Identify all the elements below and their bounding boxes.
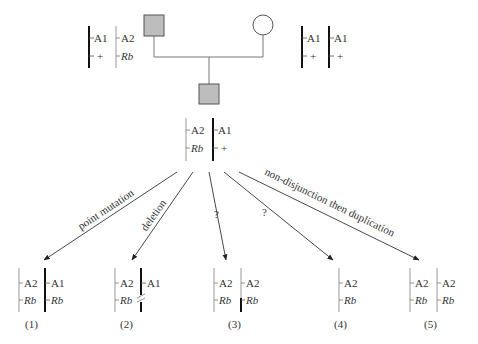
outcome-2-chr2-locus-a: A1	[147, 277, 160, 289]
diagram-canvas	[0, 0, 478, 344]
outcome-4-chr1-locus-b: Rb	[344, 294, 356, 306]
outcome-1-chr1-locus-b: Rb	[24, 294, 36, 306]
child-chr1-locus-a: A2	[191, 124, 204, 136]
father-chr1-locus-a: A1	[94, 32, 107, 44]
child-chr1-locus-b: Rb	[191, 142, 203, 154]
outcome-1-chr1-locus-a: A2	[24, 277, 37, 289]
outcome-1-chr2-locus-a: A1	[51, 277, 64, 289]
outcome-4-number: (4)	[334, 318, 347, 330]
mother-chr2-locus-a: A1	[334, 32, 347, 44]
outcome-3-number: (3)	[228, 318, 241, 330]
label-question-3: ?	[214, 208, 219, 220]
outcome-5-chr2-locus-a: A2	[442, 277, 455, 289]
outcome-5-chr2-locus-b: Rb	[442, 294, 454, 306]
outcome-2-chr1-locus-b: Rb	[120, 294, 132, 306]
outcome-3-chr2-locus-a: A2	[246, 277, 259, 289]
outcome-3-chr1-locus-b: Rb	[219, 294, 231, 306]
deletion-mark	[137, 294, 145, 302]
outcome-5-number: (5)	[424, 318, 437, 330]
father-chr1-locus-b: +	[97, 50, 103, 62]
outcome-1-number: (1)	[25, 318, 38, 330]
outcome-5-chr1-locus-b: Rb	[415, 294, 427, 306]
outcome-3-chr1-locus-a: A2	[219, 277, 232, 289]
mother-symbol	[253, 15, 273, 35]
child-symbol	[199, 84, 219, 104]
outcome-3-chr2-locus-b: Rb	[246, 294, 258, 306]
mother-chr1-locus-b: +	[310, 50, 316, 62]
child-chr2-locus-b: +	[221, 142, 227, 154]
father-symbol	[144, 15, 164, 36]
outcome-2-chr1-locus-a: A2	[120, 277, 133, 289]
mother-chr1-locus-a: A1	[307, 32, 320, 44]
outcome-4-chr1-locus-a: A2	[344, 277, 357, 289]
outcome-4-chromosomes	[339, 268, 343, 312]
father-chr2-locus-a: A2	[121, 32, 134, 44]
child-chr2-locus-a: A1	[218, 124, 231, 136]
mother-chr2-locus-b: +	[337, 50, 343, 62]
arrow-q4	[224, 172, 333, 260]
father-chr2-locus-b: Rb	[121, 50, 133, 62]
outcome-5-chr1-locus-a: A2	[415, 277, 428, 289]
outcome-2-number: (2)	[120, 318, 133, 330]
pedigree	[144, 15, 273, 104]
arrow-deletion	[132, 172, 193, 260]
label-question-4: ?	[262, 206, 267, 218]
outcome-1-chr2-locus-b: Rb	[51, 294, 63, 306]
